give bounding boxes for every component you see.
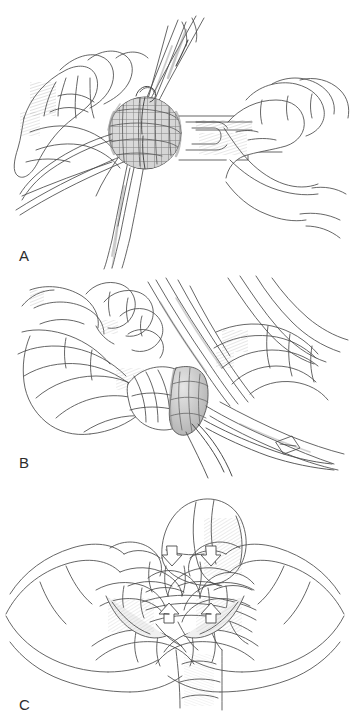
panel-a [0,0,350,270]
suture-strands-trailing [186,420,334,478]
panel-label-c: C [19,697,30,712]
panel-b-artwork [0,272,350,480]
panel-label-a: A [19,248,30,263]
illustration-plate: A B C [0,0,350,715]
panel-b [0,272,350,480]
panel-c-artwork [0,482,350,715]
panel-label-b: B [19,455,30,470]
panel-c [0,482,350,715]
mesh-plug [108,86,181,170]
panel-a-artwork [0,0,350,270]
mesh-plug-seated [169,367,208,436]
right-hand-gripping-handle [196,78,349,238]
tissue-flaps [142,571,256,710]
anatomy-cord-structures [214,276,348,400]
